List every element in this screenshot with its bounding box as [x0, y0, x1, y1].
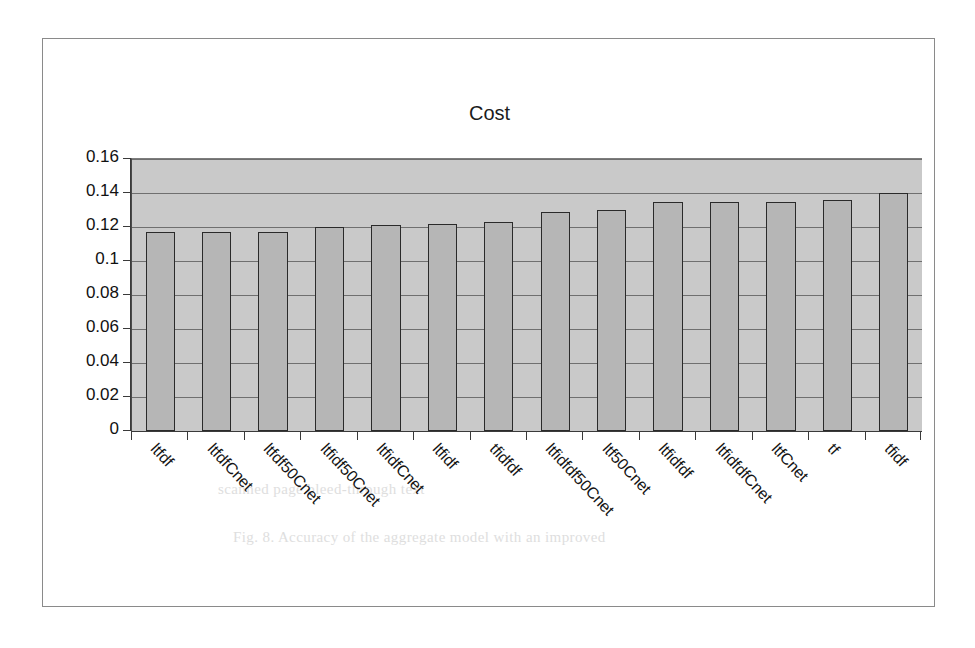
x-axis-labels: ltfdfltfdfCnetltfdf50Cnetltfidf50Cnetltf…	[131, 440, 951, 605]
y-axis-tick-label: 0.16	[43, 147, 119, 167]
y-axis-tick-label: 0.12	[43, 215, 119, 235]
chart-title: Cost	[43, 102, 936, 125]
chart-frame: scanned page bleed-through text Fig. 8. …	[42, 38, 935, 607]
y-axis-tick-label: 0	[43, 419, 119, 439]
x-axis-tick	[244, 431, 245, 440]
x-axis-tick	[413, 431, 414, 440]
x-axis-tick	[131, 431, 132, 440]
x-axis-tick-label: ltfidfdf	[655, 440, 696, 482]
bar	[484, 222, 513, 431]
y-axis-tick	[123, 192, 130, 193]
y-axis-tick	[123, 158, 130, 159]
y-axis-tick	[123, 294, 130, 295]
x-axis-tick	[639, 431, 640, 440]
plot-area	[131, 158, 922, 431]
y-axis-tick	[123, 396, 130, 397]
x-axis-tick	[808, 431, 809, 440]
x-axis-tick	[920, 431, 921, 440]
y-axis-tick-label: 0.02	[43, 385, 119, 405]
x-axis-tick	[695, 431, 696, 440]
y-axis-tick	[123, 260, 130, 261]
bar	[371, 225, 400, 431]
bar	[202, 232, 231, 431]
gridline	[132, 363, 922, 364]
gridline	[132, 227, 922, 228]
x-axis-tick-label: tfidfdf	[486, 440, 525, 480]
gridline	[132, 397, 922, 398]
y-axis-tick	[123, 328, 130, 329]
gridline	[132, 295, 922, 296]
bar	[541, 212, 570, 431]
x-axis-tick	[300, 431, 301, 440]
bar	[428, 224, 457, 431]
gridline	[132, 261, 922, 262]
x-axis-tick-label: ltfidf	[429, 440, 461, 473]
x-axis-tick-label: ltfidfdfCnet	[711, 440, 775, 506]
bar	[315, 227, 344, 431]
x-axis-tick	[187, 431, 188, 440]
x-axis-tick-label: ltfdfCnet	[204, 440, 257, 495]
x-axis-tick-label: ltfdf	[147, 440, 177, 470]
gridline	[132, 329, 922, 330]
y-axis-tick	[123, 226, 130, 227]
y-axis-tick	[123, 430, 130, 431]
bar	[146, 232, 175, 431]
gridline	[132, 159, 922, 160]
bar	[653, 202, 682, 432]
x-axis-tick	[526, 431, 527, 440]
gridline	[132, 193, 922, 194]
y-axis-tick-label: 0.08	[43, 283, 119, 303]
y-axis-tick-label: 0.06	[43, 317, 119, 337]
x-axis-tick-label: ltfCnet	[768, 440, 812, 485]
y-axis-tick-label: 0.14	[43, 181, 119, 201]
x-axis-tick	[865, 431, 866, 440]
x-axis-tick	[752, 431, 753, 440]
x-axis-tick	[357, 431, 358, 440]
x-axis-ticks	[131, 431, 921, 440]
x-axis-tick-label: tf	[824, 440, 843, 458]
x-axis-tick	[582, 431, 583, 440]
x-axis-tick	[470, 431, 471, 440]
x-axis-tick-label: tfidf	[881, 440, 911, 470]
bar	[823, 200, 852, 431]
x-axis-tick-label: ltfdf50Cnet	[260, 440, 324, 507]
bar	[879, 193, 908, 431]
y-axis-line	[130, 158, 131, 431]
bar	[766, 202, 795, 432]
x-axis-tick-label: ltfidfCnet	[373, 440, 428, 497]
x-axis-tick-label: ltf50Cnet	[599, 440, 655, 498]
y-axis-tick-label: 0.04	[43, 351, 119, 371]
bar	[258, 232, 287, 431]
bar	[710, 202, 739, 432]
y-axis-tick-label: 0.1	[43, 249, 119, 269]
bar	[597, 210, 626, 431]
y-axis-tick	[123, 362, 130, 363]
